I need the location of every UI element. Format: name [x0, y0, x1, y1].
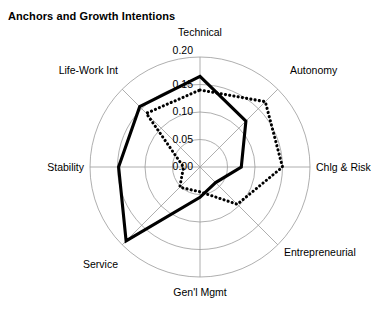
axis-label-service: Service: [83, 258, 118, 270]
axis-label-life-work: Life-Work Int: [59, 64, 118, 76]
series-dotted-path: [146, 90, 282, 204]
axis-label-autonomy: Autonomy: [290, 64, 338, 76]
tick-label-000: 0.00: [173, 160, 194, 172]
series-solid-group: [119, 76, 246, 241]
axis-labels: Technical Autonomy Chlg & Risk Entrepren…: [47, 26, 371, 298]
tick-label-010: 0.10: [173, 105, 194, 117]
axis-label-entrepreneurial: Entrepreneurial: [284, 246, 356, 258]
radar-svg: 0.00 0.05 0.10 0.15 0.20 Technical Auton…: [0, 0, 385, 317]
axis-label-technical: Technical: [178, 26, 222, 38]
tick-labels: 0.00 0.05 0.10 0.15 0.20: [173, 44, 194, 172]
radar-chart: 0.00 0.05 0.10 0.15 0.20 Technical Auton…: [0, 0, 385, 317]
tick-label-005: 0.05: [173, 133, 194, 145]
spoke-entrepreneurial: [200, 167, 278, 245]
tick-label-015: 0.15: [173, 78, 194, 90]
axis-label-genl-mgmt: Gen'l Mgmt: [173, 286, 226, 298]
series-dotted-group: [146, 90, 282, 204]
spoke-autonomy: [200, 89, 278, 167]
axis-label-chlg-risk: Chlg & Risk: [316, 161, 372, 173]
axis-label-stability: Stability: [47, 161, 85, 173]
spoke-life-work: [122, 89, 200, 167]
series-solid-path: [119, 76, 246, 241]
tick-label-020: 0.20: [173, 44, 194, 56]
